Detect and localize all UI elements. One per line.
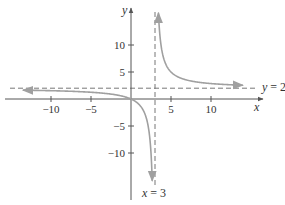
y-axis-label: y (121, 3, 128, 17)
y-tick-label: −5 (113, 120, 125, 132)
rational-function-graph: −10−5510−10−5510 y x y = 2 x = 3 (0, 0, 285, 205)
x-tick-label: −5 (85, 103, 97, 115)
y-tick-label: 10 (114, 39, 126, 51)
vertical-asymptote-label: x = 3 (141, 186, 166, 200)
x-tick-label: −10 (42, 103, 60, 115)
y-tick-label: 5 (120, 66, 126, 78)
x-axis-label: x (253, 100, 260, 114)
right-branch-curve (158, 13, 243, 85)
horizontal-asymptote-label: y = 2 (261, 80, 285, 94)
y-tick-label: −10 (108, 147, 126, 159)
x-tick-label: 5 (168, 103, 174, 115)
x-tick-label: 10 (206, 103, 218, 115)
